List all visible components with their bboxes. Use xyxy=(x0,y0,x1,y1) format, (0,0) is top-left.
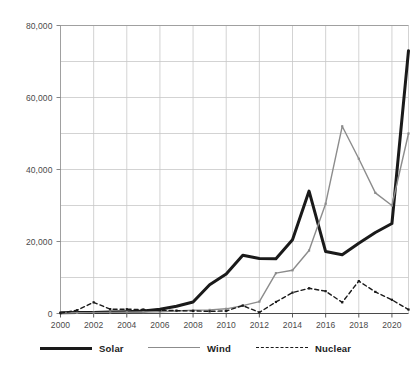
series-point-nuclear xyxy=(109,308,111,310)
series-point-nuclear xyxy=(59,312,61,314)
x-axis-tick-label: 2014 xyxy=(283,320,302,330)
x-axis-tick-label: 2012 xyxy=(250,320,269,330)
series-point-nuclear xyxy=(76,309,78,311)
series-point-nuclear xyxy=(391,299,393,301)
x-axis-tick-label: 2000 xyxy=(51,320,70,330)
x-axis-tick-label: 2008 xyxy=(183,320,202,330)
series-point-nuclear xyxy=(291,292,293,294)
series-point-wind xyxy=(391,204,393,206)
series-point-wind xyxy=(275,272,277,274)
chart-legend: Solar Wind Nuclear xyxy=(0,336,416,360)
legend-swatch-wind-icon xyxy=(148,342,200,354)
x-axis-tick-label: 2020 xyxy=(382,320,401,330)
series-point-nuclear xyxy=(358,280,360,282)
series-point-nuclear xyxy=(192,310,194,312)
series-point-nuclear xyxy=(225,310,227,312)
renewable-energy-line-chart: 020,00040,00060,00080,000 20002002200420… xyxy=(0,0,416,368)
series-point-wind xyxy=(93,312,95,314)
x-axis-tick-label: 2016 xyxy=(316,320,335,330)
series-point-nuclear xyxy=(341,301,343,303)
legend-swatch-nuclear-icon xyxy=(256,342,308,354)
series-point-wind xyxy=(308,249,310,251)
series-line-solar xyxy=(61,51,409,313)
series-point-nuclear xyxy=(175,310,177,312)
series-point-wind xyxy=(374,192,376,194)
series-point-nuclear xyxy=(142,308,144,310)
series-point-nuclear xyxy=(374,291,376,293)
series-point-wind xyxy=(291,269,293,271)
y-axis-tick-label: 20,000 xyxy=(0,237,53,247)
x-axis-tick-label: 2004 xyxy=(117,320,136,330)
series-point-wind xyxy=(109,311,111,313)
series-point-wind xyxy=(341,125,343,127)
y-axis-tick-label: 40,000 xyxy=(0,165,53,175)
legend-item-solar: Solar xyxy=(40,336,124,360)
series-point-nuclear xyxy=(275,301,277,303)
x-axis-tick-label: 2010 xyxy=(217,320,236,330)
series-point-wind xyxy=(76,312,78,314)
series-point-nuclear xyxy=(126,308,128,310)
series-point-wind xyxy=(126,311,128,313)
legend-label-solar: Solar xyxy=(99,343,124,354)
series-point-wind xyxy=(258,301,260,303)
series-point-nuclear xyxy=(242,304,244,306)
legend-swatch-solar-icon xyxy=(40,342,92,354)
series-point-nuclear xyxy=(258,311,260,313)
x-axis-tick-label: 2018 xyxy=(349,320,368,330)
legend-item-nuclear: Nuclear xyxy=(256,336,351,360)
series-point-nuclear xyxy=(407,308,409,310)
y-axis-tick-label: 80,000 xyxy=(0,21,53,31)
x-axis-tick-label: 2006 xyxy=(150,320,169,330)
y-axis-tick-label: 60,000 xyxy=(0,93,53,103)
series-point-nuclear xyxy=(308,287,310,289)
legend-label-wind: Wind xyxy=(207,343,231,354)
series-point-wind xyxy=(325,203,327,205)
y-axis-tick-label: 0 xyxy=(0,309,53,319)
series-point-nuclear xyxy=(209,310,211,312)
chart-plot-area xyxy=(0,0,416,368)
series-point-wind xyxy=(142,311,144,313)
legend-label-nuclear: Nuclear xyxy=(315,343,351,354)
series-point-wind xyxy=(225,308,227,310)
series-point-nuclear xyxy=(93,301,95,303)
series-line-nuclear xyxy=(61,281,409,313)
series-point-wind xyxy=(358,158,360,160)
x-axis-tick-label: 2002 xyxy=(84,320,103,330)
series-point-nuclear xyxy=(159,309,161,311)
series-point-nuclear xyxy=(325,290,327,292)
series-point-wind xyxy=(407,132,409,134)
legend-item-wind: Wind xyxy=(148,336,231,360)
